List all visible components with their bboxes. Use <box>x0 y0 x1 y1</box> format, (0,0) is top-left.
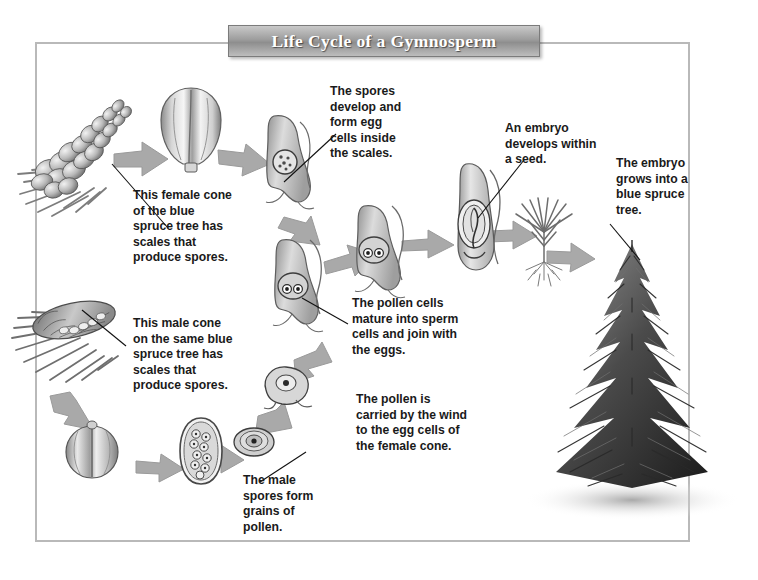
leader-embryo-grows <box>608 222 642 262</box>
caption-female-cone: This female cone of the blue spruce tree… <box>133 188 258 266</box>
caption-male-cone: This male cone on the same blue spruce t… <box>133 316 263 394</box>
page-title: Life Cycle of a Gymnosperm <box>271 31 496 52</box>
caption-male-spores-pollen: The male spores form grains of pollen. <box>243 473 353 535</box>
caption-spores-egg-cells: The spores develop and form egg cells in… <box>330 84 448 162</box>
illustration-scale-fertilized <box>348 200 428 300</box>
illustration-pollen-sac-section <box>176 415 226 487</box>
title-banner: Life Cycle of a Gymnosperm <box>228 25 540 57</box>
caption-embryo-seed: An embryo develops within a seed. <box>505 121 627 168</box>
leader-male-cone <box>80 308 128 348</box>
caption-pollen-sperm: The pollen cells mature into sperm cells… <box>352 296 490 358</box>
caption-pollen-wind: The pollen is carried by the wind to the… <box>356 392 498 454</box>
illustration-male-cone-scale <box>58 418 126 482</box>
leader-pollen-sperm <box>300 296 350 326</box>
illustration-pollen-tube <box>256 362 316 410</box>
caption-embryo-grows: The embryo grows into a blue spruce tree… <box>616 156 712 218</box>
